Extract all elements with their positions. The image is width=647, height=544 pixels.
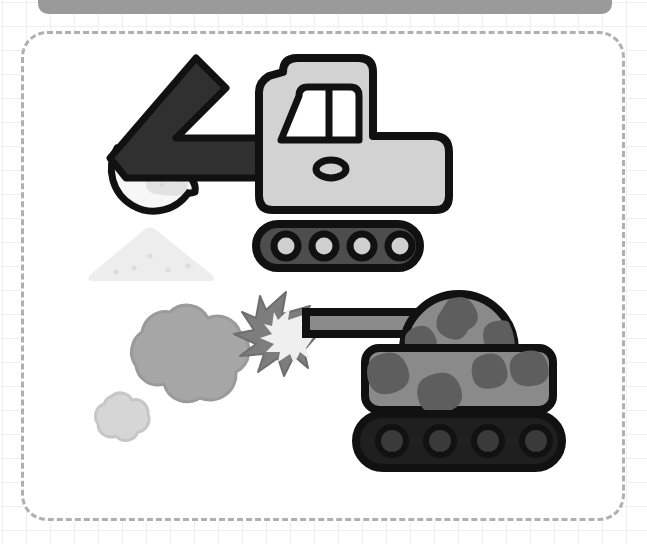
smoke-cloud-large bbox=[131, 305, 249, 402]
illustration-svg bbox=[0, 0, 647, 544]
tank-hull bbox=[365, 348, 553, 413]
excavator-handle bbox=[316, 160, 346, 178]
excavator-track bbox=[256, 224, 420, 268]
tank-barrel bbox=[306, 312, 418, 334]
tank-track bbox=[356, 414, 562, 468]
scene-canvas bbox=[0, 0, 647, 544]
dirt-pile bbox=[88, 228, 214, 282]
smoke-cloud-small bbox=[95, 393, 149, 441]
tank[interactable] bbox=[306, 294, 562, 468]
